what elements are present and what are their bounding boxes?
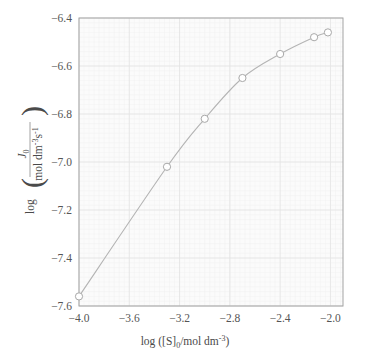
data-point-marker	[310, 34, 317, 41]
data-point-marker	[163, 163, 170, 170]
y-tick-label: −7.6	[51, 300, 72, 312]
y-tick-label: −7.4	[51, 252, 72, 264]
x-tick-label: −2.4	[270, 312, 291, 324]
y-title-den-sup1: -3	[31, 139, 40, 146]
x-title-log: log ([S]	[141, 335, 176, 348]
y-tick-label: −7.0	[51, 156, 72, 168]
x-tick-label: −2.0	[320, 312, 341, 324]
svg-text:log ([S]0/mol dm-3): log ([S]0/mol dm-3)	[141, 334, 230, 350]
x-tick-label: −2.8	[219, 312, 240, 324]
data-point-marker	[201, 115, 208, 122]
x-title-mid: /mol dm	[180, 335, 219, 347]
x-tick-label: −3.2	[169, 312, 190, 324]
y-title-close-paren: )	[15, 106, 49, 116]
y-title-den: mol dm	[32, 145, 44, 181]
x-title-sup: -3	[219, 334, 226, 343]
data-point-marker	[277, 50, 284, 57]
data-point-marker	[239, 74, 246, 81]
x-axis-title: log ([S]0/mol dm-3)	[141, 334, 230, 350]
y-title-den-sup2: -1	[31, 127, 40, 134]
y-title-denominator: mol dm-3s-1	[31, 127, 44, 180]
x-axis-tick-labels: −4.0−3.6−3.2−2.8−2.4−2.0	[69, 312, 342, 324]
y-tick-label: −6.8	[51, 108, 72, 120]
y-tick-label: −6.4	[51, 12, 72, 24]
y-tick-label: −7.2	[51, 204, 72, 216]
y-axis-tick-labels: −6.4−6.6−6.8−7.0−7.2−7.4−7.6	[51, 12, 72, 312]
x-tick-label: −3.6	[119, 312, 140, 324]
y-title-numerator: J0	[16, 149, 31, 158]
chart-figure: −4.0−3.6−3.2−2.8−2.4−2.0 −6.4−6.6−6.8−7.…	[0, 0, 370, 355]
line-chart: −4.0−3.6−3.2−2.8−2.4−2.0 −6.4−6.6−6.8−7.…	[0, 0, 370, 355]
y-title-log: log	[24, 199, 37, 214]
data-point-marker	[324, 29, 331, 36]
y-axis-title: log ( ) J0 mol dm-3s-1	[15, 106, 49, 214]
y-tick-label: −6.6	[51, 60, 72, 72]
x-title-close: )	[225, 335, 229, 348]
x-tick-label: −4.0	[69, 312, 90, 324]
data-point-marker	[75, 293, 82, 300]
